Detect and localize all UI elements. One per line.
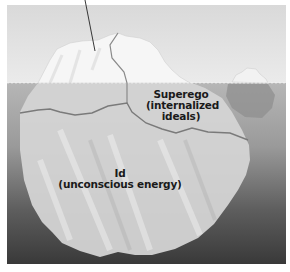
iceberg-illustration — [0, 0, 290, 272]
superego-label: Superego (internalized ideals) — [146, 89, 216, 122]
id-description: (unconscious energy) — [58, 179, 182, 190]
id-label: Id (unconscious energy) — [58, 168, 182, 190]
iceberg-diagram: Superego (internalized ideals) Id (uncon… — [0, 0, 290, 272]
superego-description-line2: ideals) — [146, 111, 216, 122]
